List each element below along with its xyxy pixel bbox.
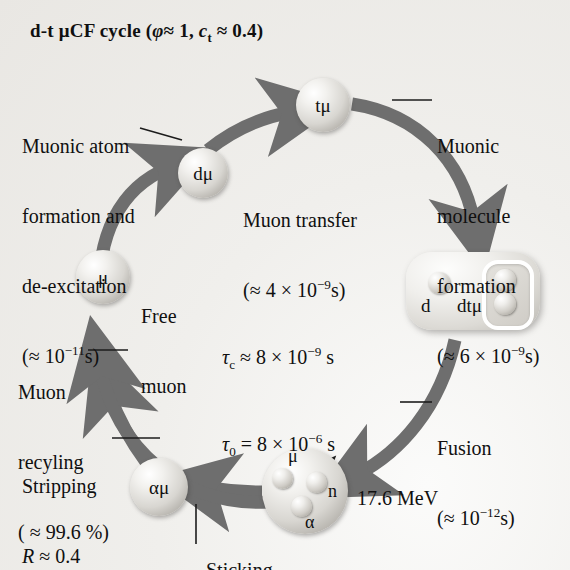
free-muon-line2: muon	[141, 375, 187, 398]
particle-d-mu: dμ	[178, 148, 228, 198]
fusion-label: Fusion (≈ 10−12s)	[437, 390, 515, 570]
fusion-l2-suffix: s)	[500, 507, 514, 529]
particle-alpha-mu-label: αμ	[149, 477, 169, 499]
arc-dmu-to-tmu	[208, 112, 292, 150]
muonic-molecule-formation-line2: molecule	[437, 205, 539, 228]
particle-alpha-mu: αμ	[130, 458, 188, 516]
muonic-molecule-formation-label: Muonic molecule formation (≈ 6 × 10−9s)	[437, 88, 539, 415]
stripping-R-value: ≈ 0.4	[34, 545, 80, 567]
stripping-line2: R ≈ 0.4	[22, 545, 96, 568]
mu-catalyzed-fusion-cycle-diagram: d-t μCF cycle (φ≈ 1, ct ≈ 0.4)	[0, 0, 570, 570]
muon-recycling-line1: Muon	[18, 381, 109, 404]
cycle-lifetimes-block: τc ≈ 8 × 10−9 s τ0 = 8 × 10−6 s	[222, 285, 335, 517]
tau-0-line: τ0 = 8 × 10−6 s	[222, 430, 335, 459]
stripping-label: Stripping R ≈ 0.4	[22, 428, 96, 570]
tau-0-exponent: −6	[308, 431, 322, 446]
mmf-l4-suffix: s)	[525, 345, 539, 367]
muonic-molecule-formation-line4: (≈ 6 × 10−9s)	[437, 345, 539, 368]
stripping-line1: Stripping	[22, 475, 96, 498]
sticking-label: Sticking ω0s ≈ 0.007	[206, 512, 298, 570]
tau-c-line: τc ≈ 8 × 10−9 s	[222, 343, 335, 372]
muonic-atom-formation-line1: Muonic atom	[22, 135, 135, 158]
muonic-atom-formation-line2: formation and	[22, 205, 135, 228]
tau-c-suffix: s	[321, 346, 334, 368]
deuteron-label: d	[421, 295, 431, 317]
muonic-atom-formation-line3: de-excitation	[22, 275, 135, 298]
tau-0-prefix: = 8 × 10	[236, 433, 309, 455]
tau-c-prefix: ≈ 8 × 10	[235, 346, 307, 368]
fusion-line1: Fusion	[437, 437, 515, 460]
free-muon-line1: Free	[141, 305, 187, 328]
muonic-molecule-formation-line1: Muonic	[437, 135, 539, 158]
particle-t-mu: tμ	[296, 78, 350, 132]
tau-0-suffix: s	[322, 433, 335, 455]
leader-muonic-atom-formation	[140, 128, 182, 140]
tau-0-subscript: 0	[229, 444, 236, 459]
free-muon-label: Free muon	[141, 258, 187, 445]
particle-t-mu-label: tμ	[315, 95, 330, 117]
particle-d-mu-label: dμ	[193, 163, 213, 185]
muonic-molecule-formation-line3: formation	[437, 275, 539, 298]
mmf-l4-exponent: −9	[511, 344, 525, 359]
muon-transfer-line1: Muon transfer	[243, 209, 357, 232]
fusion-line2: (≈ 10−12s)	[437, 507, 515, 530]
mmf-l4-prefix: (≈ 6 × 10	[437, 345, 511, 367]
energy-release-label: 17.6 MeV	[357, 487, 438, 510]
fusion-l2-exponent: −12	[480, 505, 501, 520]
stripping-R-symbol: R	[22, 545, 34, 567]
tau-c-exponent: −9	[307, 344, 321, 359]
fusion-l2-prefix: (≈ 10	[437, 507, 480, 529]
sticking-line1: Sticking	[206, 559, 298, 570]
